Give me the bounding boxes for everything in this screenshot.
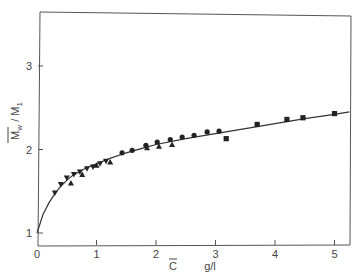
square-marker <box>224 136 229 141</box>
x-tick-label: 4 <box>272 248 278 260</box>
x-axis-ticks: 012345 <box>34 240 338 260</box>
axes-box <box>38 12 351 246</box>
circle-marker <box>216 129 221 134</box>
x-tick-label: 5 <box>331 248 337 260</box>
x-axis-label: Cg/l <box>169 259 216 272</box>
square-marker <box>255 122 260 127</box>
square-marker <box>284 117 289 122</box>
circle-marker <box>168 137 173 142</box>
chart: 012345 123 Cg/l Mw / M1 <box>0 0 364 277</box>
y-label-group: Mw / M1 <box>8 102 24 143</box>
y-axis-label: Mw / M1 <box>8 102 24 143</box>
x-label-symbol: C <box>169 260 177 272</box>
circle-marker <box>155 139 160 144</box>
circle-marker <box>119 150 124 155</box>
x-label-unit: g/l <box>204 260 216 272</box>
triangle-down-marker <box>52 190 58 196</box>
circle-marker <box>205 129 210 134</box>
plot-frame <box>38 12 351 246</box>
circle-marker <box>143 143 148 148</box>
y-tick-label: 1 <box>26 227 32 239</box>
x-tick-label: 2 <box>153 248 159 260</box>
x-tick-label: 1 <box>93 248 99 260</box>
triangle-up-marker <box>68 180 74 186</box>
y-label-text: Mw / M1 <box>9 102 24 140</box>
x-tick-label: 0 <box>34 248 40 260</box>
square-marker <box>332 111 337 116</box>
data-points <box>52 111 337 196</box>
y-axis-ticks: 123 <box>26 60 43 239</box>
square-marker <box>300 115 305 120</box>
circle-marker <box>130 148 135 153</box>
y-tick-label: 2 <box>26 144 32 156</box>
x-tick-label: 3 <box>212 248 218 260</box>
y-tick-label: 3 <box>26 60 32 72</box>
circle-marker <box>191 133 196 138</box>
fit-curve <box>37 112 349 233</box>
circle-marker <box>180 134 185 139</box>
